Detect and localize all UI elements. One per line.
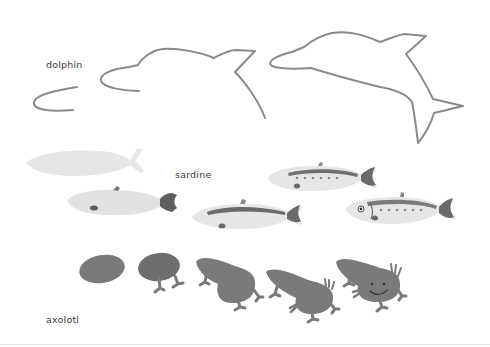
illustration — [0, 0, 490, 347]
dolphin-stage-3 — [270, 32, 463, 143]
drawing-canvas: dolphin sardine axolotl — [0, 0, 490, 347]
sardine-stage-1 — [26, 148, 144, 176]
dolphin-stage-1 — [34, 87, 77, 111]
axolotl-stage-3 — [196, 258, 263, 310]
bottom-divider — [0, 344, 490, 345]
axolotl-stage-1 — [77, 251, 127, 287]
sardine-stage-2 — [67, 186, 177, 215]
sardine-stage-5 — [345, 192, 456, 224]
axolotl-stage-5 — [336, 259, 406, 311]
dolphin-stage-2 — [101, 49, 265, 118]
axolotl-stage-4 — [266, 270, 339, 322]
axolotl-stage-2 — [136, 250, 183, 292]
sardine-stage-4 — [268, 162, 377, 191]
sardine-stage-3 — [192, 199, 302, 229]
